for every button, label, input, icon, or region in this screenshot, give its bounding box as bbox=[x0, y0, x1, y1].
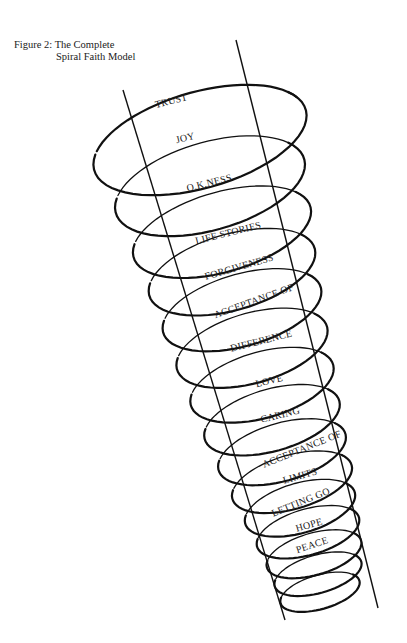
spiral-ring-back bbox=[97, 85, 297, 151]
stage-label: ACCEPTANCE OF bbox=[212, 281, 295, 320]
stage-label: JOY bbox=[174, 130, 195, 145]
stage-label: CARING bbox=[259, 404, 301, 424]
stage-label: LETTING GO bbox=[270, 485, 332, 518]
spiral-rings bbox=[93, 85, 361, 612]
stage-label: FORGIVENESS bbox=[203, 252, 274, 282]
stage-label: DIFFERENCE bbox=[229, 328, 293, 354]
stage-label: TRUST bbox=[154, 91, 189, 110]
stage-label: LIFE STORIES bbox=[194, 219, 262, 246]
spiral-faith-diagram: TRUSTJOYO.K.NESSLIFE STORIESFORGIVENESSA… bbox=[0, 0, 407, 643]
stage-label: ACCEPTANCE OF bbox=[261, 428, 343, 470]
axis-line-left bbox=[123, 90, 285, 620]
